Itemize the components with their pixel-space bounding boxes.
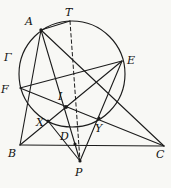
segment-A-C: [41, 30, 164, 146]
point-label-D: D: [59, 130, 69, 143]
geometry-figure: TAEFIXYDBCPΓ: [0, 0, 171, 188]
point-label-E: E: [126, 54, 135, 67]
point-dot-D: [73, 142, 76, 145]
segment-E-F: [20, 61, 122, 88]
segment-A-T: [41, 21, 70, 30]
point-label-C: C: [156, 148, 165, 161]
point-dot-A: [39, 28, 42, 31]
point-label-A: A: [24, 15, 33, 28]
circle-label-Gamma: Γ: [3, 51, 12, 64]
point-label-P: P: [74, 166, 83, 179]
point-label-Y: Y: [95, 122, 104, 135]
point-label-T: T: [65, 6, 74, 19]
segment-B-C: [20, 145, 164, 146]
point-dot-Y: [98, 117, 101, 120]
point-label-I: I: [57, 90, 63, 103]
geometry-figure-page: TAEFIXYDBCPΓ: [0, 0, 171, 188]
point-label-F: F: [0, 83, 9, 96]
point-dot-X: [47, 120, 50, 123]
segment-T-P-dashed: [70, 21, 80, 161]
point-dot-P: [78, 159, 81, 162]
point-dot-I: [64, 105, 68, 109]
point-label-B: B: [7, 147, 16, 160]
point-label-X: X: [35, 116, 45, 129]
